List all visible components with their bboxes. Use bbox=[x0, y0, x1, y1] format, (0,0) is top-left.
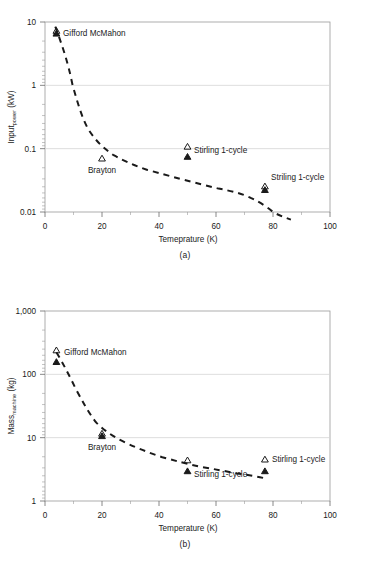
yaxis-title-a: Inputpower (kW) bbox=[7, 90, 17, 143]
xtick-label-b-0: 0 bbox=[43, 511, 48, 520]
xaxis-title-a: Temeprature (K) bbox=[158, 235, 217, 244]
chart-panel-b: 1,000 100 10 1 0 20 40 60 bbox=[0, 289, 370, 578]
ytick-label-a-1: 1 bbox=[31, 81, 36, 90]
xtick-label-a-0: 0 bbox=[43, 222, 48, 231]
ytick-label-b-2: 10 bbox=[27, 434, 37, 443]
annotation-brayton-a: Brayton bbox=[88, 166, 117, 175]
ytick-label-a-0: 10 bbox=[27, 18, 37, 27]
ytick-minor-group-b bbox=[42, 330, 45, 498]
xtick-label-a-3: 60 bbox=[211, 222, 221, 231]
annotation-stirling-50k-b: Stirling 1-cycle bbox=[194, 470, 248, 479]
svg-text:Massmachine (kg): Massmachine (kg) bbox=[7, 377, 17, 434]
yaxis-title-b-unit: (kg) bbox=[7, 377, 16, 394]
ytick-label-b-1: 100 bbox=[22, 370, 36, 379]
ytick-label-a-2: 0.1 bbox=[25, 145, 37, 154]
ytick-label-b-3: 1 bbox=[31, 497, 36, 506]
xtick-label-b-5: 100 bbox=[323, 511, 337, 520]
svg-text:Inputpower (kW): Inputpower (kW) bbox=[7, 90, 17, 143]
annotation-brayton-b: Brayton bbox=[88, 443, 117, 452]
plot-area-a bbox=[45, 22, 330, 212]
xaxis-title-b: Temperature (K) bbox=[158, 524, 217, 533]
ytick-label-b-0: 1,000 bbox=[16, 307, 37, 316]
annotation-gifford-mcmahon-b: Gifford McMahon bbox=[64, 348, 127, 357]
yaxis-title-b-main: Mass bbox=[7, 415, 16, 435]
xtick-label-b-3: 60 bbox=[211, 511, 221, 520]
plot-b-svg: 1,000 100 10 1 0 20 40 60 bbox=[0, 289, 370, 549]
xtick-label-b-4: 80 bbox=[268, 511, 278, 520]
xtick-minor-group-a bbox=[74, 212, 302, 215]
yaxis-title-a-sub: power bbox=[11, 110, 17, 125]
ytick-minor-group-a bbox=[42, 41, 45, 209]
yaxis-title-b: Massmachine (kg) bbox=[7, 377, 17, 434]
xtick-label-a-1: 20 bbox=[97, 222, 107, 231]
xtick-label-a-2: 40 bbox=[154, 222, 164, 231]
xtick-label-b-1: 20 bbox=[97, 511, 107, 520]
yaxis-title-a-unit: (kW) bbox=[7, 90, 16, 110]
chart-panel-a: 10 1 0.1 0.01 0 20 40 bbox=[0, 0, 370, 289]
plot-a-svg: 10 1 0.1 0.01 0 20 40 bbox=[0, 0, 370, 260]
yaxis-title-a-main: Input bbox=[7, 125, 16, 144]
panel-caption-a: (a) bbox=[0, 250, 370, 260]
xtick-label-b-2: 40 bbox=[154, 511, 164, 520]
xtick-label-a-5: 100 bbox=[323, 222, 337, 231]
annotation-stirling-77k-b: Stirling 1-cycle bbox=[272, 455, 326, 464]
panel-caption-b: (b) bbox=[0, 539, 370, 549]
annotation-gifford-mcmahon-a: Gifford McMahon bbox=[63, 29, 126, 38]
annotation-striling-77k-a: Striling 1-cycle bbox=[271, 173, 325, 182]
xtick-label-a-4: 80 bbox=[268, 222, 278, 231]
annotation-stirling-50k-a: Stirling 1-cycle bbox=[194, 146, 248, 155]
figure-container: 10 1 0.1 0.01 0 20 40 bbox=[0, 0, 370, 578]
xtick-minor-group-b bbox=[74, 501, 302, 504]
yaxis-title-b-sub: machine bbox=[11, 394, 17, 415]
ytick-label-a-3: 0.01 bbox=[20, 208, 36, 217]
